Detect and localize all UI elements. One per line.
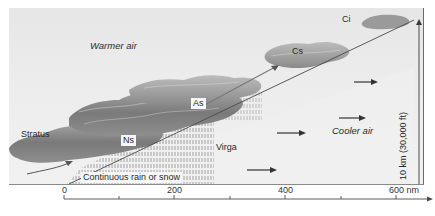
cooler-air-label: Cooler air (332, 125, 373, 136)
cross-section-graphic (9, 8, 423, 184)
height-label: 10 km (30,000 ft) (398, 112, 408, 180)
altostratus-label: As (191, 98, 206, 109)
height-axis-arrowhead-icon (416, 19, 422, 25)
cirrus-cloud-icon (362, 15, 410, 30)
cirrus-label: Ci (342, 14, 351, 24)
axis-tick-200: 200 (167, 185, 182, 195)
distance-axis-arrowhead-icon (427, 197, 433, 202)
cirrostratus-label: Cs (292, 46, 303, 56)
warm-front-diagram-panel: Warmer air Cooler air Ci Cs As Ns Stratu… (9, 8, 424, 185)
axis-tick-600: 600 nm (389, 185, 419, 195)
virga-label: Virga (216, 142, 237, 152)
continuous-rain-label: Continuous rain or snow (81, 172, 182, 183)
stratus-label: Stratus (21, 129, 50, 139)
warm-air-inflow-arrow (27, 162, 71, 174)
warmer-air-label: Warmer air (90, 40, 137, 51)
axis-tick-0: 0 (62, 185, 67, 195)
axis-tick-400: 400 (278, 185, 293, 195)
nimbostratus-label: Ns (121, 135, 136, 146)
